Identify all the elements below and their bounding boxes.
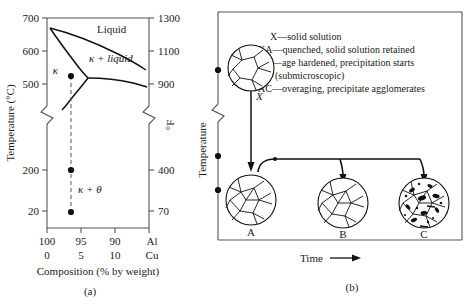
x-tick-95: 95 [76, 235, 88, 247]
invariant-line [88, 78, 147, 87]
right-tick-900: 900 [158, 78, 175, 90]
micrograph-x [228, 45, 274, 91]
right-tick-1300: 1300 [158, 12, 181, 24]
legend-line-4: (submicroscopic) [275, 70, 344, 82]
x-tick-100: 100 [39, 235, 56, 247]
legend-line-5: AC—overaging, precipitate agglomerates [258, 83, 425, 94]
legend-line-2: XA—quenched, solid solution retained [258, 44, 415, 55]
panel-b: Temperature X—solid solution XA—quenched… [196, 12, 462, 294]
figure-svg: 700 600 500 200 20 1300 1100 900 400 70 … [0, 0, 472, 304]
left-tick-20: 20 [28, 205, 40, 217]
panel-b-caption: (b) [346, 281, 359, 294]
panel-b-temp-dot-mid [215, 153, 221, 159]
micrograph-c: C [399, 178, 449, 240]
micrograph-a-label: A [247, 226, 255, 238]
panel-a-right-ticks [149, 18, 154, 211]
micrograph-c-label: C [420, 228, 427, 240]
panel-a-x-axis-title: Composition (% by weight) [37, 265, 160, 278]
right-tick-70: 70 [158, 205, 170, 217]
x-tick-al: Al [147, 235, 158, 247]
path-x-label: X [255, 90, 264, 102]
label-liquid: Liquid [97, 23, 127, 35]
figure-container: 700 600 500 200 20 1300 1100 900 400 70 … [0, 0, 472, 304]
panel-a-bottom-ticks [47, 228, 149, 233]
left-tick-700: 700 [23, 12, 40, 24]
point-kappa [68, 73, 74, 79]
path-x-vertical: X [248, 90, 265, 172]
right-tick-1100: 1100 [158, 45, 180, 57]
solvus-curve [62, 78, 88, 110]
x-tick-90: 90 [110, 235, 122, 247]
panel-b-y-axis-title: Temperature [196, 122, 208, 178]
panel-a-left-axis-title: Temperature (°C) [4, 84, 17, 162]
panel-a: 700 600 500 200 20 1300 1100 900 400 70 … [4, 12, 181, 298]
panel-b-temp-dot-high [215, 67, 221, 73]
label-kappa-plus-liquid: κ + liquid [89, 52, 133, 64]
panel-a-frame [47, 18, 149, 228]
aging-path [258, 159, 420, 172]
micrograph-a: A [226, 175, 276, 238]
x-tick-0: 0 [44, 249, 50, 261]
left-tick-200: 200 [23, 164, 40, 176]
panel-b-temp-dot-low [215, 187, 221, 193]
right-tick-400: 400 [158, 164, 175, 176]
left-tick-600: 600 [23, 45, 40, 57]
panel-a-phase-curves [50, 28, 147, 110]
panel-a-right-axis-title: °F [164, 120, 176, 131]
micrograph-b: B [318, 178, 368, 240]
panel-b-left-axis [212, 12, 224, 240]
aging-path-node [273, 157, 277, 161]
panel-a-caption: (a) [84, 285, 97, 298]
panel-b-time-axis: Time [300, 252, 361, 264]
point-20c [68, 209, 74, 215]
label-kappa: κ [53, 64, 59, 76]
aging-branch-arrows [340, 159, 424, 176]
panel-a-right-axis [143, 18, 155, 228]
label-kappa-plus-theta: κ + θ [78, 183, 102, 195]
legend-line-1: X—solid solution [270, 31, 341, 42]
point-200c [68, 167, 74, 173]
legend-line-3: AB—age hardened, precipitation starts [258, 57, 414, 68]
x-tick-5: 5 [78, 249, 84, 261]
micrograph-b-label: B [339, 228, 346, 240]
panel-a-left-axis [41, 18, 53, 228]
x-tick-10: 10 [110, 249, 122, 261]
left-tick-500: 500 [23, 78, 40, 90]
panel-b-x-axis-title: Time [300, 252, 323, 264]
x-tick-cu: Cu [146, 249, 159, 261]
